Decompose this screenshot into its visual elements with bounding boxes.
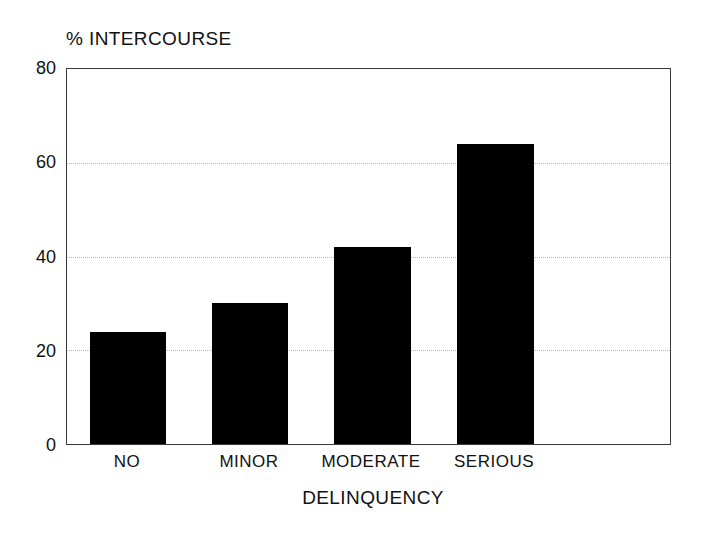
gridline-60 (67, 163, 670, 164)
chart-title: % INTERCOURSE (66, 28, 232, 50)
bar-moderate (334, 247, 411, 444)
y-tick-label-80: 80 (0, 58, 56, 79)
plot-area (66, 68, 671, 445)
y-tick-label-60: 60 (0, 152, 56, 173)
bar-chart-figure: % INTERCOURSE 80 60 40 20 0 NO MINOR MOD… (0, 0, 706, 536)
x-tick-label-serious: SERIOUS (454, 452, 534, 472)
x-axis-title: DELINQUENCY (0, 487, 706, 509)
bar-no (90, 332, 166, 445)
y-tick-label-40: 40 (0, 246, 56, 267)
x-tick-label-no: NO (114, 452, 141, 472)
bar-serious (457, 144, 534, 444)
y-tick-label-0: 0 (0, 435, 56, 456)
x-tick-label-minor: MINOR (219, 452, 278, 472)
bar-minor (212, 303, 288, 444)
x-tick-label-moderate: MODERATE (321, 452, 420, 472)
y-tick-label-20: 20 (0, 340, 56, 361)
